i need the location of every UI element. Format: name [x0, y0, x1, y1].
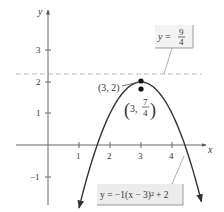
y-tick-label: −1	[30, 172, 40, 182]
x-tick-label: 4	[169, 151, 174, 161]
y-tick-label: 3	[36, 45, 41, 55]
x-tick-label: 2	[107, 151, 112, 161]
point-three-seven-fourths	[138, 86, 143, 91]
svg-text:4: 4	[143, 108, 148, 118]
svg-text:=: =	[165, 31, 171, 42]
y-tick-label: 1	[36, 108, 41, 118]
x-tick-label: 1	[76, 151, 81, 161]
svg-text:4: 4	[179, 37, 184, 47]
y-tick-label: 2	[36, 77, 41, 87]
y-axis-label: y	[37, 6, 43, 17]
vertex-point	[138, 78, 143, 83]
svg-text:7: 7	[143, 97, 148, 107]
svg-text:3,: 3,	[130, 103, 138, 114]
equation-label: y = −1(x − 3)² + 2	[100, 190, 169, 201]
x-axis-label: x	[207, 144, 213, 155]
svg-text:): )	[150, 100, 156, 121]
svg-text:y: y	[157, 31, 163, 42]
point-label-seven-fourths: ( 3, 7 4 )	[124, 97, 156, 121]
vertex-label: (3, 2)	[98, 82, 120, 94]
equation-callout: y = −1(x − 3)² + 2	[97, 156, 184, 205]
x-tick-label: 3	[138, 151, 143, 161]
svg-text:9: 9	[179, 27, 184, 37]
parabola-graph: x y 1 2 3 4 3 2 1 −1 (3, 2) ( 3, 7 4 )	[0, 0, 224, 212]
nine-fourths-callout: y = 9 4	[155, 25, 193, 74]
